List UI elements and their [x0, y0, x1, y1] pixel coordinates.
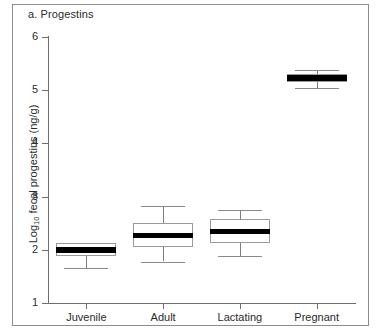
y-tick-mark [42, 303, 48, 304]
x-tick-label-pregnant: Pregnant [272, 312, 362, 323]
x-tick-mark [163, 304, 164, 309]
x-tick-mark [86, 304, 87, 309]
y-axis-title-log: Log [27, 225, 39, 243]
y-tick-label: 1 [12, 297, 38, 308]
x-axis-spine [48, 303, 356, 304]
y-tick-label: 5 [12, 84, 38, 95]
figure-panel: a. Progestins Log10 fecal progestins (ng… [0, 0, 379, 334]
x-tick-mark [240, 304, 241, 309]
y-tick-label: 3 [12, 191, 38, 202]
x-tick-mark [317, 304, 318, 309]
y-tick-label: 4 [12, 137, 38, 148]
page-title: a. Progestins [28, 8, 94, 20]
y-axis-title-subscript: 10 [32, 217, 41, 225]
y-tick-label: 6 [12, 31, 38, 42]
y-tick-label: 2 [12, 244, 38, 255]
plot-area [48, 37, 355, 303]
